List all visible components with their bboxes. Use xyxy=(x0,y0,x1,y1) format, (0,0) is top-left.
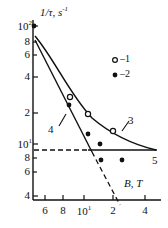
legend-label-2: –2 xyxy=(120,69,130,79)
axis-lines xyxy=(33,20,161,200)
legend-markers xyxy=(113,58,118,78)
series-2-filled-circles xyxy=(32,24,125,163)
x-tick-label-4: 4 xyxy=(137,205,153,216)
figure-container: 102 8 6 4 2 101 8 6 4 6 8 101 2 4 1/τ, s… xyxy=(0,0,168,228)
curve-label-5: 5 xyxy=(152,155,158,166)
x-tick-marks xyxy=(45,195,145,200)
legend-marker-open-circle xyxy=(113,58,118,63)
y-tick-label-6e1: 6 xyxy=(2,49,30,60)
y-tick-label-8e1: 8 xyxy=(2,36,30,47)
y-tick-label-100: 102 xyxy=(2,20,32,32)
x-tick-label-10: 101 xyxy=(72,205,96,217)
y-tick-marks xyxy=(33,26,38,196)
y-tick-label-10: 101 xyxy=(2,138,32,150)
x-axis-title: B, T xyxy=(124,178,142,189)
x-tick-label-6: 6 xyxy=(37,205,53,216)
curve-label-4: 4 xyxy=(48,124,54,135)
series-1-open-circles xyxy=(67,94,115,133)
x-tick-label-8: 8 xyxy=(55,205,71,216)
y-tick-label-4e1: 4 xyxy=(2,71,30,82)
y-tick-label-6: 6 xyxy=(2,166,30,177)
x-tick-label-2: 2 xyxy=(105,205,121,216)
legend-marker-filled-circle xyxy=(113,73,118,78)
y-axis-title: 1/τ, s-1 xyxy=(40,6,68,18)
y-tick-label-4: 4 xyxy=(2,190,30,201)
y-tick-label-2e1: 2 xyxy=(2,107,30,118)
y-tick-label-8: 8 xyxy=(2,152,30,163)
curve-label-3: 3 xyxy=(128,115,134,126)
legend-label-1: –1 xyxy=(120,54,130,64)
